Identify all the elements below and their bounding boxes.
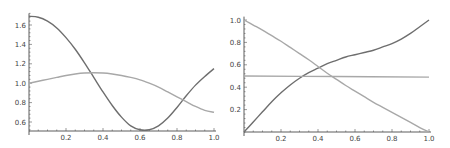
y-tick-label: 1.4: [15, 41, 27, 49]
y-tick-label: 0.8: [230, 39, 241, 47]
x-tick-label: 1.0: [423, 135, 434, 143]
y-tick-label: 0.6: [230, 61, 242, 69]
x-tick-label: 0.2: [275, 135, 286, 143]
y-tick-label: 1.6: [15, 22, 27, 30]
x-tick-label: 0.2: [60, 134, 71, 142]
y-tick-label: 0.6: [15, 119, 27, 127]
y-tick-label: 0.8: [15, 99, 26, 107]
left-chart: 0.20.40.60.81.00.60.81.01.21.41.6: [15, 13, 220, 142]
charts-canvas: 0.20.40.60.81.00.60.81.01.21.41.6 0.20.4…: [0, 0, 450, 148]
y-tick-label: 0.2: [230, 106, 241, 114]
x-tick-label: 1.0: [208, 134, 219, 142]
y-tick-label: 1.2: [15, 60, 26, 68]
series-line-dark: [29, 16, 214, 130]
series-line-light-flat: [244, 76, 429, 77]
series-line-light: [29, 73, 214, 113]
x-tick-label: 0.6: [134, 134, 146, 142]
x-tick-label: 0.8: [171, 134, 182, 142]
x-tick-label: 0.6: [349, 135, 361, 143]
y-tick-label: 0.4: [230, 84, 242, 92]
x-tick-label: 0.4: [312, 135, 324, 143]
x-tick-label: 0.8: [386, 135, 397, 143]
y-tick-label: 1.0: [15, 80, 26, 88]
right-chart: 0.20.40.60.81.00.20.40.60.81.0: [230, 17, 435, 144]
y-tick-label: 1.0: [230, 17, 241, 25]
x-tick-label: 0.4: [97, 134, 109, 142]
